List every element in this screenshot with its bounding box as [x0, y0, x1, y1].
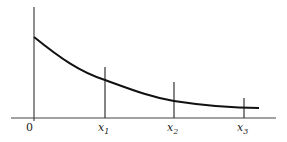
decay-curve: [34, 37, 259, 108]
diagram-canvas: 0 x1 x2 x3: [0, 0, 287, 142]
x3-label: x3: [237, 121, 248, 136]
origin-label: 0: [26, 121, 33, 134]
x2-label: x2: [167, 121, 178, 136]
x1-label: x1: [98, 121, 109, 136]
